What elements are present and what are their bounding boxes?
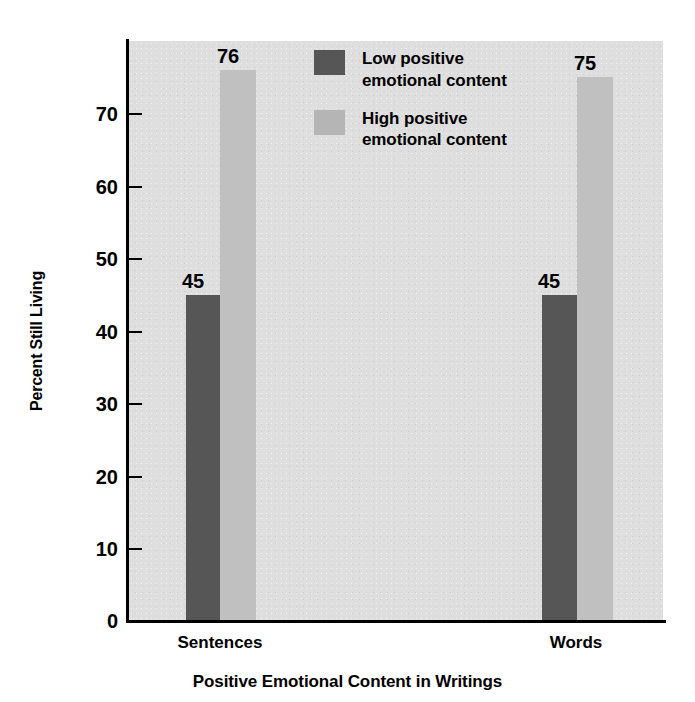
legend-entry-high: High positive emotional content	[314, 108, 544, 152]
y-axis-title: Percent Still Living	[28, 211, 46, 471]
y-tick-label-10: 10	[72, 539, 118, 559]
y-tick-label-30: 30	[72, 394, 118, 414]
legend-entry-low: Low positive emotional content	[314, 48, 544, 92]
y-tick-label-40: 40	[72, 322, 118, 342]
bar-chart-figure: Percent Still Living Low positive emotio…	[0, 0, 695, 702]
x-axis-line	[126, 620, 666, 623]
x-category-label-words: Words	[496, 633, 656, 653]
bar-sentences-low	[186, 295, 220, 621]
y-tick-20	[129, 476, 142, 478]
y-tick-50	[129, 258, 142, 260]
legend-swatch-high	[314, 110, 345, 135]
bar-value-sentences-low: 45	[163, 271, 223, 291]
y-tick-label-20: 20	[72, 467, 118, 487]
y-tick-40	[129, 331, 142, 333]
y-tick-60	[129, 186, 142, 188]
y-tick-label-60: 60	[72, 177, 118, 197]
y-tick-70	[129, 113, 142, 115]
bar-texture	[542, 295, 577, 621]
bar-value-words-low: 45	[519, 271, 579, 291]
bar-sentences-high	[220, 70, 256, 621]
legend-label-low: Low positive emotional content	[362, 48, 507, 92]
bar-words-low	[542, 295, 577, 621]
y-tick-label-50: 50	[72, 249, 118, 269]
bar-value-words-high: 75	[555, 53, 615, 73]
legend-swatch-low	[314, 50, 345, 75]
y-tick-30	[129, 403, 142, 405]
legend-label-high: High positive emotional content	[362, 108, 507, 152]
bar-words-high	[577, 77, 613, 621]
bar-texture	[577, 77, 613, 621]
legend: Low positive emotional content High posi…	[314, 48, 544, 167]
y-tick-10	[129, 548, 142, 550]
plot-area: Low positive emotional content High posi…	[129, 41, 663, 621]
bar-texture	[220, 70, 256, 621]
x-axis-title: Positive Emotional Content in Writings	[0, 672, 695, 692]
bar-texture	[186, 295, 220, 621]
y-tick-label-70: 70	[72, 104, 118, 124]
x-category-label-sentences: Sentences	[140, 633, 300, 653]
y-tick-label-0: 0	[72, 611, 118, 631]
bar-value-sentences-high: 76	[198, 46, 258, 66]
